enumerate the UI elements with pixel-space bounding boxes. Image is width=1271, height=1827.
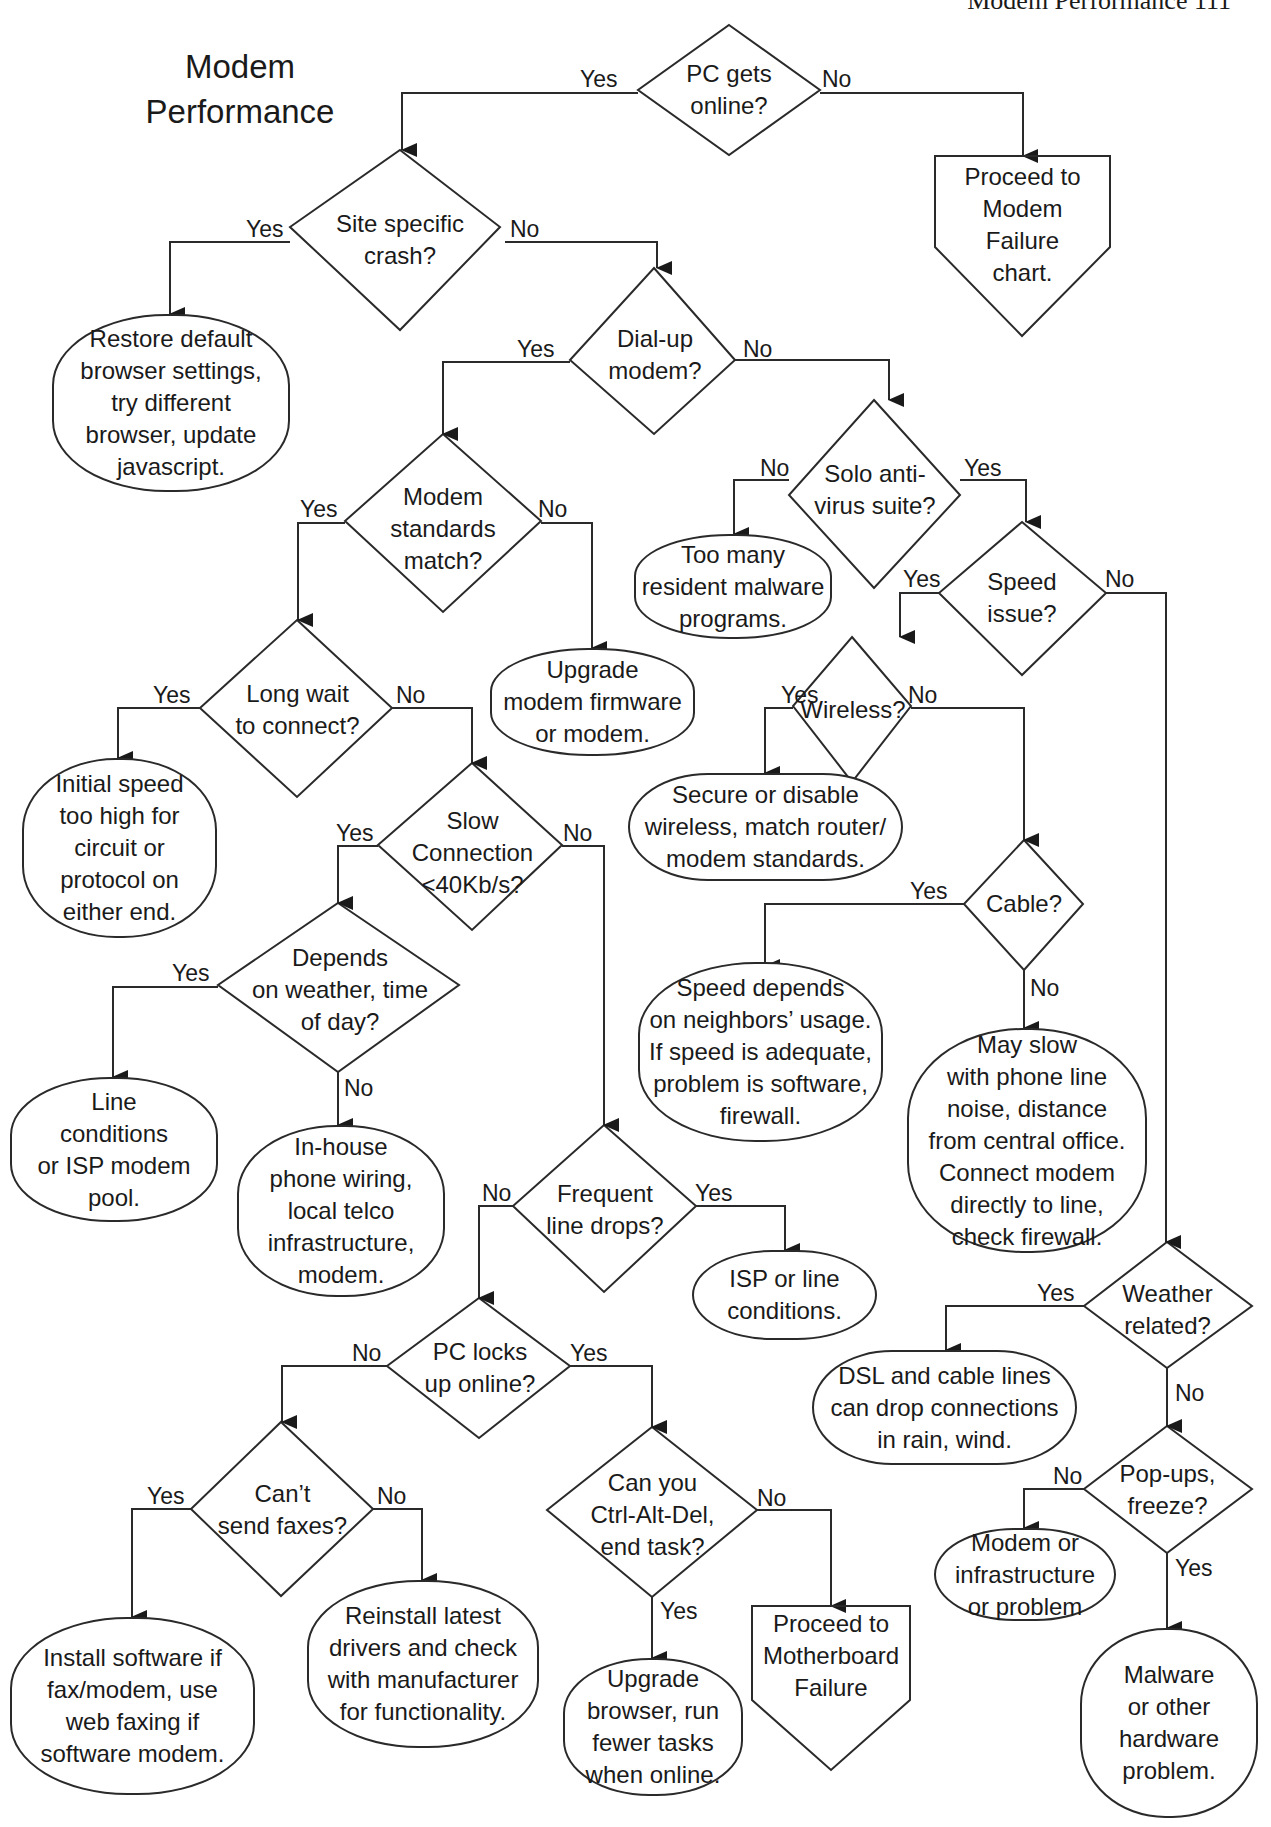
outcome-speed-depends: Speed depends on neighbors’ usage. If sp… <box>638 962 883 1142</box>
decision-dial-up-modem: Dial-up modem? <box>580 315 730 395</box>
outcome-line-conditions: Line conditions or ISP modem pool. <box>10 1077 218 1222</box>
decision-wireless: Wireless? <box>795 690 911 730</box>
decision-site-specific-crash: Site specific crash? <box>300 200 500 280</box>
decision-depends-weather: Depends on weather, time of day? <box>225 935 455 1045</box>
label-yes: Yes <box>517 336 555 362</box>
label-no: No <box>1053 1463 1082 1489</box>
outcome-secure-wireless: Secure or disable wireless, match router… <box>628 773 903 881</box>
decision-cable: Cable? <box>966 884 1082 924</box>
label-yes: Yes <box>570 1340 608 1366</box>
label-yes: Yes <box>660 1598 698 1624</box>
decision-cant-send-faxes: Can’t send faxes? <box>200 1470 365 1550</box>
outcome-initial-speed: Initial speed too high for circuit or pr… <box>22 758 217 938</box>
decision-long-wait: Long wait to connect? <box>215 670 380 750</box>
decision-ctrl-alt-del: Can you Ctrl-Alt-Del, end task? <box>555 1460 750 1570</box>
outcome-modem-failure: Proceed to Modem Failure chart. <box>935 160 1110 290</box>
outcome-upgrade-browser: Upgrade browser, run fewer tasks when on… <box>563 1658 743 1796</box>
decision-popups-freeze: Pop-ups, freeze? <box>1090 1450 1245 1530</box>
label-no: No <box>352 1340 381 1366</box>
outcome-install-software: Install software if fax/modem, use web f… <box>10 1617 255 1795</box>
label-yes: Yes <box>153 682 191 708</box>
outcome-dsl-cable: DSL and cable lines can drop connections… <box>812 1350 1077 1465</box>
outcome-malware-hardware: Malware or other hardware problem. <box>1080 1628 1258 1818</box>
label-yes: Yes <box>964 455 1002 481</box>
outcome-may-slow: May slow with phone line noise, distance… <box>907 1028 1147 1253</box>
label-no: No <box>757 1485 786 1511</box>
label-yes: Yes <box>910 878 948 904</box>
outcome-modem-infrastructure: Modem or infrastructure or problem <box>934 1528 1116 1621</box>
label-no: No <box>908 682 937 708</box>
outcome-isp-line: ISP or line conditions. <box>692 1250 877 1340</box>
label-no: No <box>743 336 772 362</box>
decision-frequent-drops: Frequent line drops? <box>515 1170 695 1250</box>
label-yes: Yes <box>336 820 374 846</box>
label-yes: Yes <box>580 66 618 92</box>
decision-weather-related: Weather related? <box>1090 1270 1245 1350</box>
label-no: No <box>822 66 851 92</box>
label-yes: Yes <box>903 566 941 592</box>
outcome-too-many-malware: Too many resident malware programs. <box>634 534 832 639</box>
label-no: No <box>377 1483 406 1509</box>
label-yes: Yes <box>246 216 284 242</box>
decision-speed-issue: Speed issue? <box>950 558 1094 638</box>
label-no: No <box>482 1180 511 1206</box>
outcome-restore-browser: Restore default browser settings, try di… <box>52 314 290 492</box>
label-yes: Yes <box>1037 1280 1075 1306</box>
decision-pc-locks-up: PC locks up online? <box>390 1328 570 1408</box>
label-no: No <box>760 455 789 481</box>
label-yes: Yes <box>172 960 210 986</box>
label-no: No <box>1030 975 1059 1001</box>
label-no: No <box>538 496 567 522</box>
decision-pc-gets-online: PC gets online? <box>648 50 810 130</box>
flowchart-canvas: Modem Performance 111 Modem Performance <box>0 0 1271 1827</box>
label-no: No <box>1105 566 1134 592</box>
label-no: No <box>563 820 592 846</box>
label-yes: Yes <box>695 1180 733 1206</box>
label-no: No <box>1175 1380 1204 1406</box>
outcome-in-house-wiring: In-house phone wiring, local telco infra… <box>237 1125 445 1297</box>
label-no: No <box>510 216 539 242</box>
outcome-motherboard-failure: Proceed to Motherboard Failure <box>752 1606 910 1706</box>
decision-modem-standards-match: Modem standards match? <box>360 474 526 584</box>
label-yes: Yes <box>1175 1555 1213 1581</box>
label-yes: Yes <box>147 1483 185 1509</box>
outcome-upgrade-firmware: Upgrade modem firmware or modem. <box>490 648 695 756</box>
label-no: No <box>396 682 425 708</box>
label-yes: Yes <box>300 496 338 522</box>
decision-slow-connection: Slow Connection <40Kb/s? <box>385 798 560 908</box>
outcome-reinstall-drivers: Reinstall latest drivers and check with … <box>307 1580 539 1748</box>
label-no: No <box>344 1075 373 1101</box>
decision-solo-antivirus: Solo anti- virus suite? <box>780 450 970 530</box>
